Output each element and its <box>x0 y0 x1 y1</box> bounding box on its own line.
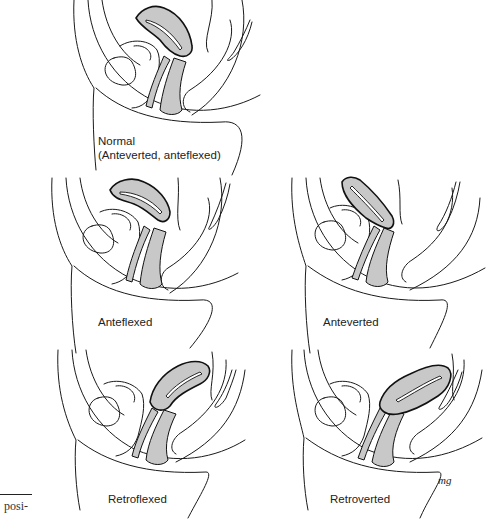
panel-anteflexed: Anteflexed <box>40 178 240 353</box>
label-anteverted: Anteverted <box>323 315 379 329</box>
panel-retroflexed: Retroflexed <box>40 350 260 521</box>
label-anteflexed: Anteflexed <box>98 315 152 329</box>
label-retroverted: Retroverted <box>330 492 390 506</box>
panel-retroverted: Retroverted mg <box>280 350 492 521</box>
label-retroflexed: Retroflexed <box>108 492 167 506</box>
margin-text-fragment: posi- <box>4 499 28 514</box>
panel-anteverted: Anteverted <box>280 178 492 353</box>
label-normal-line2: (Anteverted, anteflexed) <box>98 148 221 162</box>
artist-signature: mg <box>438 474 451 486</box>
pelvis-diagram-anteverted <box>280 178 492 353</box>
label-normal-line1: Normal <box>98 134 221 148</box>
margin-rule <box>0 494 32 495</box>
panel-normal: Normal (Anteverted, anteflexed) <box>62 0 262 175</box>
label-normal: Normal (Anteverted, anteflexed) <box>98 134 221 162</box>
